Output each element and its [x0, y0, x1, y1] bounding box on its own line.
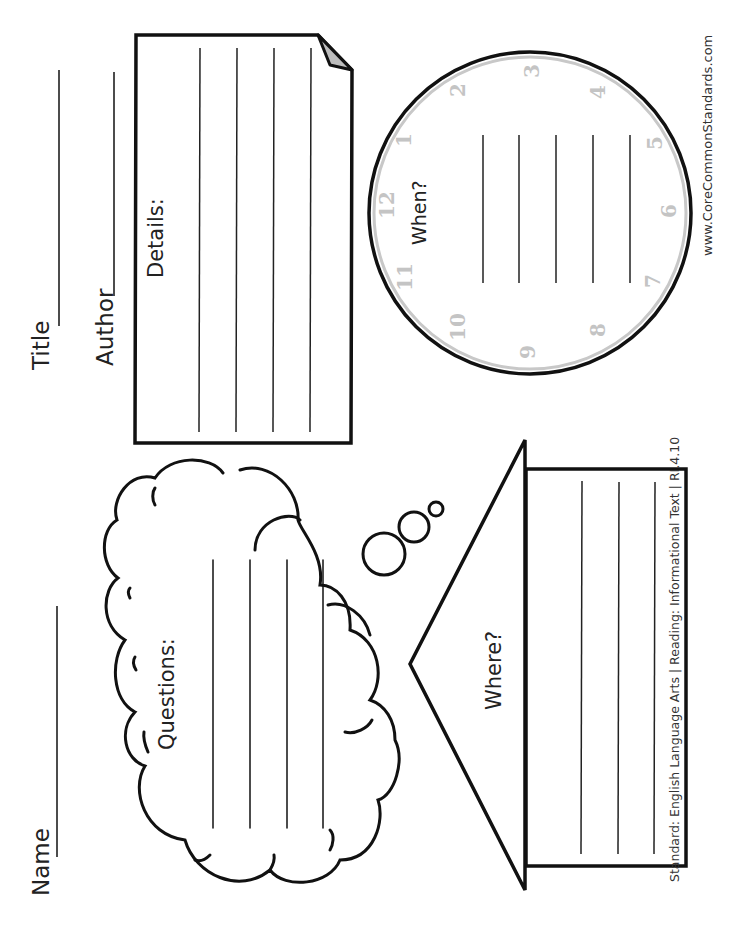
clock-number-8: 8 — [586, 323, 610, 337]
clock-number-3: 3 — [520, 64, 544, 78]
thought-bubble-large — [363, 533, 405, 575]
when-heading: When? — [408, 180, 430, 245]
clock-number-9: 9 — [516, 345, 540, 359]
where-line-2[interactable] — [618, 482, 619, 854]
clock-number-5: 5 — [643, 136, 667, 150]
questions-cloud — [104, 460, 399, 882]
details-line-3[interactable] — [273, 48, 274, 432]
clock-number-10: 10 — [446, 313, 470, 341]
questions-heading: Questions: — [155, 638, 179, 750]
details-line-1[interactable] — [199, 48, 200, 432]
title-label: Title — [28, 321, 54, 370]
worksheet-artwork — [0, 0, 744, 926]
details-line-4[interactable] — [310, 48, 311, 432]
where-heading: Where? — [482, 631, 506, 710]
clock-number-4: 4 — [586, 85, 610, 99]
where-house — [410, 440, 686, 890]
name-label: Name — [28, 828, 54, 896]
clock-number-7: 7 — [641, 274, 665, 288]
thought-bubble-medium — [399, 512, 429, 542]
author-label: Author — [92, 289, 118, 366]
standard-footer: Standard: English Language Arts | Readin… — [667, 437, 682, 882]
details-line-2[interactable] — [236, 48, 237, 432]
website-footer: www.CoreCommonStandards.com — [700, 35, 715, 256]
clock-number-2: 2 — [446, 83, 470, 97]
clock-number-6: 6 — [657, 204, 681, 218]
clock-number-1: 1 — [392, 133, 416, 147]
thought-bubble-small — [429, 502, 443, 516]
where-line-1[interactable] — [581, 481, 582, 854]
where-line-3[interactable] — [654, 482, 655, 854]
clock-number-11: 11 — [393, 263, 417, 291]
clock-number-12: 12 — [375, 191, 399, 219]
details-heading: Details: — [144, 198, 168, 278]
